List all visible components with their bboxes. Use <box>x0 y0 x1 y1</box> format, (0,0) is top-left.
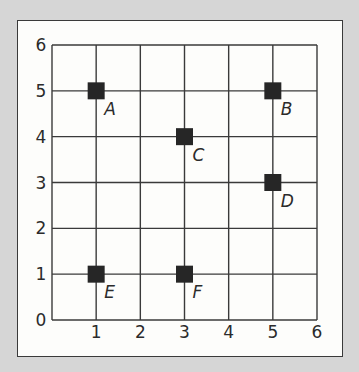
coordinate-grid-chart: 0123456 123456 ABCDEF <box>0 0 359 372</box>
square-marker-icon <box>264 174 281 191</box>
point-c: C <box>176 128 205 165</box>
point-label: E <box>104 282 115 302</box>
point-label: A <box>103 99 116 119</box>
point-label: C <box>193 145 205 165</box>
point-b: B <box>264 82 292 119</box>
point-a: A <box>88 82 116 119</box>
square-marker-icon <box>176 128 193 145</box>
point-label: D <box>281 191 294 211</box>
y-tick-label: 3 <box>36 173 47 193</box>
point-f: F <box>176 266 203 303</box>
point-e: E <box>88 266 116 303</box>
y-tick-label: 6 <box>36 35 47 55</box>
x-tick-label: 3 <box>179 322 190 342</box>
y-tick-label: 0 <box>36 310 47 330</box>
y-axis-tick-labels: 0123456 <box>36 35 47 330</box>
x-tick-label: 1 <box>91 322 102 342</box>
x-tick-label: 2 <box>135 322 146 342</box>
point-label: B <box>281 99 293 119</box>
x-tick-label: 6 <box>312 322 323 342</box>
point-label: F <box>193 282 203 302</box>
square-marker-icon <box>88 266 105 283</box>
y-tick-label: 4 <box>36 127 47 147</box>
square-marker-icon <box>88 82 105 99</box>
square-marker-icon <box>264 82 281 99</box>
x-axis-tick-labels: 123456 <box>91 322 323 342</box>
x-tick-label: 4 <box>223 322 234 342</box>
y-tick-label: 5 <box>36 81 47 101</box>
point-d: D <box>264 174 294 211</box>
square-marker-icon <box>176 266 193 283</box>
y-tick-label: 2 <box>36 218 47 238</box>
data-points: ABCDEF <box>88 82 294 302</box>
x-tick-label: 5 <box>267 322 278 342</box>
y-tick-label: 1 <box>36 264 47 284</box>
